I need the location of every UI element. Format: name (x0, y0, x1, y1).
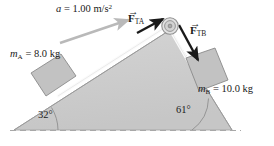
acceleration-arrow (60, 20, 128, 43)
tension-b-subscript: TB (197, 29, 207, 38)
mass-b-unit: kg (243, 83, 254, 94)
mass-b-symbol: m (198, 83, 206, 94)
acceleration-unit-exponent: 2 (109, 3, 113, 11)
acceleration-value: 1.00 (72, 3, 90, 14)
mass-a-symbol: m (10, 48, 18, 59)
tension-a-subscript: TA (135, 17, 144, 26)
mass-a-subscript: A (18, 53, 23, 61)
acceleration-label: a = 1.00 m/s2 (56, 4, 112, 15)
acceleration-equals: = (64, 3, 70, 14)
degree-icon: ° (187, 104, 191, 115)
angle-left-label: 32° (38, 110, 53, 121)
angle-right-label: 61° (176, 105, 191, 116)
vector-arrow-icon: → (190, 19, 197, 29)
mass-b-equals: = (213, 83, 219, 94)
mass-a-equals: = (25, 48, 31, 59)
mass-a-value: 8.0 (34, 48, 47, 59)
acceleration-unit: m/s (93, 3, 108, 14)
mass-a-unit: kg (50, 48, 61, 59)
physics-diagram-figure: a = 1.00 m/s2 →FTA →FTB mA = 8.0 kg mB =… (0, 0, 274, 146)
angle-left-value: 32 (38, 109, 49, 120)
pulley-axle (168, 24, 172, 28)
vector-arrow-icon: → (128, 7, 135, 17)
mass-a-label: mA = 8.0 kg (10, 49, 60, 60)
tension-b-symbol: →F (190, 24, 197, 36)
tension-a-label: →FTA (128, 13, 144, 24)
degree-icon: ° (49, 109, 53, 120)
mass-b-subscript: B (206, 88, 211, 96)
mass-b-value: 10.0 (222, 83, 240, 94)
mass-b-label: mB = 10.0 kg (198, 84, 253, 95)
acceleration-symbol: a (56, 3, 61, 14)
tension-b-label: →FTB (190, 25, 206, 36)
angle-right-value: 61 (176, 104, 187, 115)
tension-a-symbol: →F (128, 12, 135, 24)
